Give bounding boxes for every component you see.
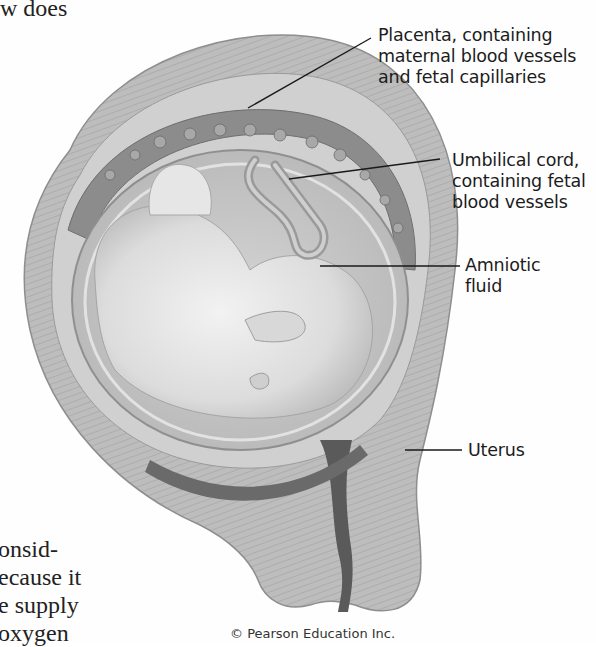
label-placenta: Placenta, containing maternal blood vess… xyxy=(378,25,576,88)
figure-credit: © Pearson Education Inc. xyxy=(230,626,395,641)
body-text-line-2: ecause it xyxy=(0,563,81,591)
label-placenta-line-1: Placenta, containing xyxy=(378,25,576,46)
label-umbilical-cord-line-2: containing fetal xyxy=(452,171,586,192)
body-text-line-4: oxygen xyxy=(0,619,81,647)
label-umbilical-cord: Umbilical cord, containing fetal blood v… xyxy=(452,150,586,213)
label-amniotic-fluid-line-2: fluid xyxy=(465,276,540,297)
body-text-line-3: e supply xyxy=(0,591,81,619)
label-uterus-line-1: Uterus xyxy=(468,440,525,461)
body-text-line-1: onsid- xyxy=(0,535,81,563)
label-umbilical-cord-line-1: Umbilical cord, xyxy=(452,150,586,171)
label-umbilical-cord-line-3: blood vessels xyxy=(452,192,586,213)
label-amniotic-fluid-line-1: Amniotic xyxy=(465,255,540,276)
label-amniotic-fluid: Amniotic fluid xyxy=(465,255,540,297)
body-text-bottom-fragment: onsid- ecause it e supply oxygen xyxy=(0,535,81,647)
label-uterus: Uterus xyxy=(468,440,525,461)
label-placenta-line-2: maternal blood vessels xyxy=(378,46,576,67)
label-placenta-line-3: and fetal capillaries xyxy=(378,67,576,88)
